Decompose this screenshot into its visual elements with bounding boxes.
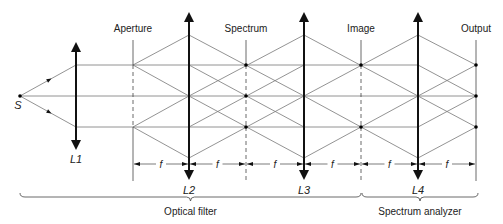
source-point xyxy=(18,94,22,98)
ray xyxy=(133,96,189,127)
brace-label-spectrum-analyzer: Spectrum analyzer xyxy=(378,207,461,217)
plane-label-output: Output xyxy=(461,24,491,34)
ray xyxy=(418,127,476,158)
plane-output xyxy=(474,40,478,181)
dimension-f: f xyxy=(362,159,417,170)
ray-direction-arrow-icon xyxy=(46,109,51,113)
plane-label-spectrum: Spectrum xyxy=(225,24,268,34)
focal-length-label: f xyxy=(216,159,220,170)
brace-label-optical-filter: Optical filter xyxy=(164,207,217,217)
arrow-right-icon xyxy=(411,162,417,166)
focal-length-label: f xyxy=(274,159,278,170)
lens-label-l2: L2 xyxy=(183,185,195,196)
focal-length-label: f xyxy=(160,159,164,170)
arrow-up-icon xyxy=(299,12,309,22)
focal-planes xyxy=(133,40,478,181)
plane-label-aperture: Aperture xyxy=(114,24,152,34)
dimension-f: f xyxy=(247,159,303,170)
lens-label-l3: L3 xyxy=(298,185,310,196)
focal-point xyxy=(474,63,478,67)
lens-label-l4: L4 xyxy=(412,185,424,196)
ray xyxy=(133,65,189,96)
arrow-left-icon xyxy=(305,162,311,166)
focal-point xyxy=(359,125,363,129)
ray xyxy=(418,35,476,65)
arrow-down-icon xyxy=(299,170,309,180)
dimension-f: f xyxy=(419,159,475,170)
focal-point xyxy=(474,125,478,129)
dimension-f: f xyxy=(305,159,360,170)
arrow-left-icon xyxy=(419,162,425,166)
source-label: S xyxy=(14,100,21,111)
lens-label-l1: L1 xyxy=(70,154,82,165)
focal-point xyxy=(474,94,478,98)
focal-length-label: f xyxy=(331,159,335,170)
arrow-down-icon xyxy=(71,140,81,150)
arrow-right-icon xyxy=(469,162,475,166)
section-braces xyxy=(20,193,478,201)
arrow-up-icon xyxy=(413,12,423,22)
arrow-right-icon xyxy=(182,162,188,166)
arrow-right-icon xyxy=(297,162,303,166)
focal-point xyxy=(244,63,248,67)
dimension-f: f xyxy=(134,159,188,170)
dimension-f: f xyxy=(190,159,245,170)
focal-length-label: f xyxy=(388,159,392,170)
plane-label-image: Image xyxy=(347,24,375,34)
arrow-up-icon xyxy=(184,12,194,22)
arrow-right-icon xyxy=(354,162,360,166)
arrow-up-icon xyxy=(71,42,81,52)
arrow-down-icon xyxy=(413,170,423,180)
ray-direction-arrow-icon xyxy=(46,79,51,83)
ray xyxy=(133,127,189,158)
focal-length-label: f xyxy=(446,159,450,170)
focal-point xyxy=(244,125,248,129)
arrow-left-icon xyxy=(247,162,253,166)
arrow-left-icon xyxy=(362,162,368,166)
focal-point xyxy=(359,63,363,67)
ray xyxy=(133,35,189,65)
arrow-right-icon xyxy=(239,162,245,166)
arrow-down-icon xyxy=(184,170,194,180)
arrow-left-icon xyxy=(190,162,196,166)
plane-spectrum xyxy=(244,40,248,181)
plane-image xyxy=(359,40,363,181)
arrow-left-icon xyxy=(134,162,140,166)
focal-point xyxy=(244,94,248,98)
